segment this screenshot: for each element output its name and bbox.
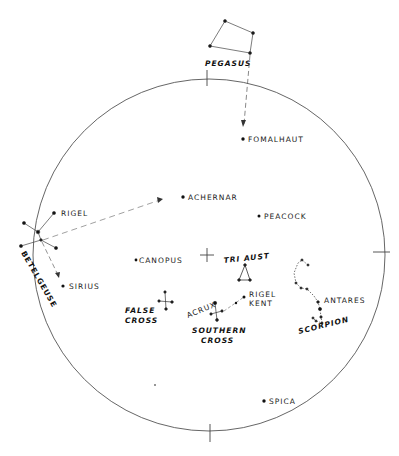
sirius-label: SIRIUS xyxy=(69,282,100,291)
rigel-kent-label-line2: KENT xyxy=(249,299,273,308)
pegasus-label: PEGASUS xyxy=(205,59,251,68)
rigel-kent-label-line1: RIGEL xyxy=(249,290,276,299)
fomalhaut-label: FOMALHAUT xyxy=(248,135,304,144)
false-cross-label-line2: CROSS xyxy=(125,316,158,325)
star-dots xyxy=(61,137,265,402)
canopus-label: CANOPUS xyxy=(139,256,183,265)
antares-label: ANTARES xyxy=(324,296,366,305)
false-cross-label-line1: FALSE xyxy=(125,306,155,315)
orion-constellation xyxy=(19,211,57,249)
pointer-rigel-kent xyxy=(224,296,246,312)
southern-cross-label-line2: CROSS xyxy=(201,336,234,345)
star-chart: PEGASUS RIGEL BETELGEUSE FOMALHAUT ACHER xyxy=(0,0,399,456)
rigel-label: RIGEL xyxy=(61,209,88,218)
tri-aust-constellation xyxy=(238,264,252,282)
scorpion-constellation xyxy=(294,259,323,324)
pointer-orion-achernar xyxy=(43,197,163,240)
acrux-label: ACRUX xyxy=(185,300,217,320)
false-cross-constellation xyxy=(158,291,174,311)
scorpion-label: SCORPION xyxy=(297,315,350,336)
peacock-label: PEACOCK xyxy=(264,212,307,221)
southern-cross-label-line1: SOUTHERN xyxy=(192,326,246,335)
pegasus-constellation xyxy=(209,20,255,55)
tri-aust-label: TRI AUST xyxy=(223,251,270,265)
spica-label: SPICA xyxy=(269,397,296,406)
achernar-label: ACHERNAR xyxy=(188,193,238,202)
